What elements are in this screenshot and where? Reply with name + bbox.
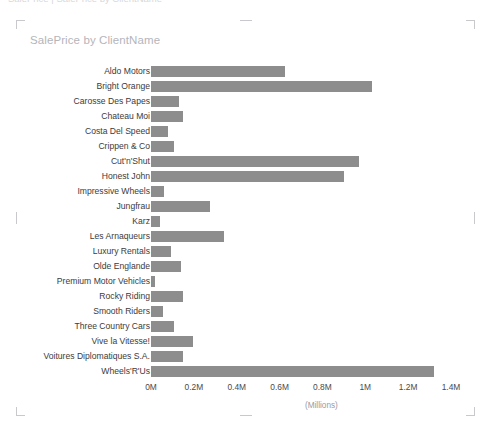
x-axis: (Millions) 0M0.2M0.4M0.6M0.8M1M1.2M1.4M [16,379,475,419]
bar[interactable] [151,201,210,211]
bar[interactable] [151,141,174,151]
bar[interactable] [151,81,372,91]
bar-row[interactable]: Les Arnaqueurs [16,229,475,244]
bar-row[interactable]: Carosse Des Papes [16,94,475,109]
bar-row[interactable]: Luxury Rentals [16,244,475,259]
bar-row[interactable]: Karz [16,214,475,229]
bar-row[interactable]: Wheels'R'Us [16,364,475,379]
category-label: Impressive Wheels [0,184,150,199]
bar-row[interactable]: Premium Motor Vehicles [16,274,475,289]
category-label: Vive la Vitesse! [0,334,150,349]
bar[interactable] [151,291,183,301]
clipped-header-strip: SalePrice | SalePrice by ClientName [0,0,491,11]
bar[interactable] [151,171,344,181]
clipped-header-text: SalePrice | SalePrice by ClientName [8,0,162,4]
bar-row[interactable]: Smooth Riders [16,304,475,319]
bar-row[interactable]: Voitures Diplomatiques S.A. [16,349,475,364]
bar-row[interactable]: Crippen & Co [16,139,475,154]
bar[interactable] [151,66,285,76]
bar[interactable] [151,96,179,106]
bar[interactable] [151,231,224,241]
category-label: Les Arnaqueurs [0,229,150,244]
bar-row[interactable]: Chateau Moi [16,109,475,124]
bar[interactable] [151,306,163,316]
category-label: Carosse Des Papes [0,94,150,109]
bar[interactable] [151,321,174,331]
category-label: Aldo Motors [0,64,150,79]
bar-row[interactable]: Honest John [16,169,475,184]
bar[interactable] [151,111,183,121]
bar-row[interactable]: Costa Del Speed [16,124,475,139]
category-label: Honest John [0,169,150,184]
bar-row[interactable]: Rocky Riding [16,289,475,304]
x-axis-tick-label: 0M [145,382,157,392]
bar[interactable] [151,216,160,226]
x-axis-tick-label: 1.2M [399,382,418,392]
bar-row[interactable]: Impressive Wheels [16,184,475,199]
bar-row[interactable]: Aldo Motors [16,64,475,79]
bar[interactable] [151,156,359,166]
axis-unit-label: (Millions) [305,401,338,410]
x-axis-tick-label: 0.4M [227,382,246,392]
category-label: Wheels'R'Us [0,364,150,379]
plot-area: Aldo MotorsBright OrangeCarosse Des Pape… [16,64,475,404]
category-label: Chateau Moi [0,109,150,124]
category-label: Cut'n'Shut [0,154,150,169]
category-label: Rocky Riding [0,289,150,304]
category-label: Jungfrau [0,199,150,214]
category-label: Smooth Riders [0,304,150,319]
chart-title: SalePrice by ClientName [30,34,160,46]
bar-row[interactable]: Bright Orange [16,79,475,94]
x-axis-tick-label: 0.2M [185,382,204,392]
x-axis-tick-label: 0.6M [270,382,289,392]
category-label: Voitures Diplomatiques S.A. [0,349,150,364]
bar-row[interactable]: Cut'n'Shut [16,154,475,169]
category-label: Three Country Cars [0,319,150,334]
bar[interactable] [151,126,168,136]
category-label: Crippen & Co [0,139,150,154]
x-axis-tick-label: 0.8M [313,382,332,392]
bar[interactable] [151,261,181,271]
bar-row[interactable]: Vive la Vitesse! [16,334,475,349]
sale-price-bar-chart-visual[interactable]: SalePrice by ClientName Aldo MotorsBrigh… [16,20,475,416]
x-axis-tick-label: 1M [359,382,371,392]
bar[interactable] [151,276,155,286]
category-label: Luxury Rentals [0,244,150,259]
bar[interactable] [151,366,434,376]
bar-row[interactable]: Three Country Cars [16,319,475,334]
category-label: Costa Del Speed [0,124,150,139]
bar[interactable] [151,336,193,346]
bar-rows: Aldo MotorsBright OrangeCarosse Des Pape… [16,64,475,379]
bar[interactable] [151,186,164,196]
category-label: Premium Motor Vehicles [0,274,150,289]
x-axis-tick-label: 1.4M [442,382,461,392]
bar-row[interactable]: Jungfrau [16,199,475,214]
category-label: Karz [0,214,150,229]
bar[interactable] [151,351,183,361]
category-label: Olde Englande [0,259,150,274]
category-label: Bright Orange [0,79,150,94]
bar-row[interactable]: Olde Englande [16,259,475,274]
bar[interactable] [151,246,171,256]
